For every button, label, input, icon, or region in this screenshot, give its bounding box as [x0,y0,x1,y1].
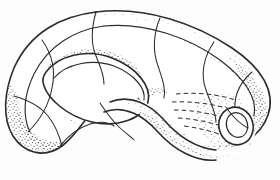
tube-illustration [0,0,280,180]
figure-root [0,0,280,180]
